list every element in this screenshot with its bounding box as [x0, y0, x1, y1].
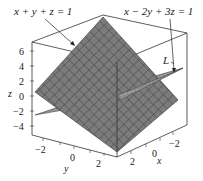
y-axis-label: y	[63, 163, 69, 174]
y-tick-0: 0	[70, 152, 75, 163]
z-tick-2: 2	[19, 76, 24, 87]
z-axis-label: z	[7, 88, 12, 99]
x-tick-m2: −2	[169, 138, 180, 149]
plane1-surface	[35, 17, 178, 152]
line-L-label: L	[162, 54, 169, 66]
x-tick-2: 2	[130, 156, 135, 167]
3d-plot: 6 4 2 0 −2 −4 z −2 0 2 y 2 0 −2 x x + y …	[0, 0, 203, 181]
z-tick-0: 0	[19, 91, 24, 102]
x-axis-label: x	[156, 155, 162, 166]
plane2-label: x − 2y + 3z = 1	[123, 5, 193, 17]
y-tick-2: 2	[96, 158, 101, 169]
plane1-arrow	[45, 19, 73, 44]
plane1-label: x + y + z = 1	[13, 5, 72, 17]
y-tick-m2: −2	[35, 144, 46, 155]
z-tick-6: 6	[19, 46, 24, 57]
z-tick-4: 4	[19, 61, 24, 72]
z-tick-m4: −4	[13, 121, 24, 132]
z-tick-m2: −2	[13, 106, 24, 117]
